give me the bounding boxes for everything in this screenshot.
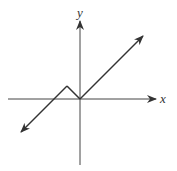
y-axis-label: y — [75, 5, 83, 20]
graph-canvas: y x — [0, 0, 177, 171]
graph-svg: y x — [0, 0, 177, 171]
curve-middle-segment — [67, 86, 80, 99]
x-axis-label: x — [159, 91, 166, 106]
curve-left-ray — [21, 86, 67, 132]
curve-right-ray — [80, 36, 143, 99]
